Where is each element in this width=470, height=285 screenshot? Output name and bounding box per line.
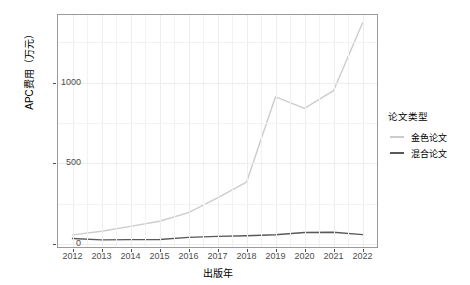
gridline-vertical-minor — [261, 15, 262, 247]
gridline-vertical-minor — [290, 15, 291, 247]
gridline-vertical — [334, 15, 335, 247]
gridline-horizontal — [58, 83, 377, 84]
gridline-horizontal-minor — [58, 42, 377, 43]
x-tick-mark — [189, 249, 190, 252]
gridline-horizontal-minor — [58, 204, 377, 205]
y-tick-mark — [53, 163, 56, 164]
x-tick-mark — [276, 249, 277, 252]
legend-line-swatch — [390, 152, 404, 154]
gridline-vertical-minor — [203, 15, 204, 247]
legend-items: 金色论文混合论文 — [388, 129, 468, 161]
gridline-vertical-minor — [174, 15, 175, 247]
legend: 论文类型 金色论文混合论文 — [388, 109, 468, 161]
gridline-vertical-minor — [87, 15, 88, 247]
x-tick-mark — [102, 249, 103, 252]
gridline-vertical-minor — [116, 15, 117, 247]
y-tick-mark — [53, 83, 56, 84]
gridline-vertical — [189, 15, 190, 247]
gridline-vertical-minor — [232, 15, 233, 247]
legend-item-label: 金色论文 — [411, 131, 447, 144]
y-axis-title: APC费用（万元） — [21, 0, 36, 150]
gridline-vertical — [363, 15, 364, 247]
gridline-vertical-minor — [348, 15, 349, 247]
gridline-vertical — [305, 15, 306, 247]
gridline-horizontal — [58, 163, 377, 164]
gridline-horizontal-minor — [58, 123, 377, 124]
x-tick-mark — [218, 249, 219, 252]
legend-line-swatch — [390, 136, 404, 138]
legend-item[interactable]: 混合论文 — [388, 145, 468, 161]
x-tick-mark — [73, 249, 74, 252]
gridline-vertical — [276, 15, 277, 247]
legend-title: 论文类型 — [388, 109, 468, 123]
x-tick-mark — [305, 249, 306, 252]
x-tick-label: 2022 — [343, 251, 383, 261]
chart-figure: APC费用（万元） 05001000 201220132014201520162… — [0, 0, 470, 285]
x-tick-mark — [131, 249, 132, 252]
gridline-vertical — [160, 15, 161, 247]
x-tick-mark — [363, 249, 364, 252]
gridline-vertical — [102, 15, 103, 247]
gridline-vertical-minor — [145, 15, 146, 247]
x-tick-mark — [160, 249, 161, 252]
y-tick-label: 500 — [66, 157, 81, 167]
gridline-vertical-minor — [319, 15, 320, 247]
gridline-horizontal — [58, 244, 377, 245]
gridline-vertical — [218, 15, 219, 247]
plot-panel — [57, 14, 378, 248]
y-tick-label: 0 — [76, 238, 81, 248]
legend-item-label: 混合论文 — [411, 147, 447, 160]
gridline-vertical — [131, 15, 132, 247]
x-axis-title: 出版年 — [57, 265, 379, 280]
gridline-vertical — [73, 15, 74, 247]
y-tick-label: 1000 — [61, 77, 81, 87]
x-tick-mark — [247, 249, 248, 252]
legend-key-icon — [388, 146, 406, 160]
x-tick-mark — [334, 249, 335, 252]
y-tick-mark — [53, 244, 56, 245]
legend-key-icon — [388, 130, 406, 144]
gridline-vertical — [247, 15, 248, 247]
legend-item[interactable]: 金色论文 — [388, 129, 468, 145]
